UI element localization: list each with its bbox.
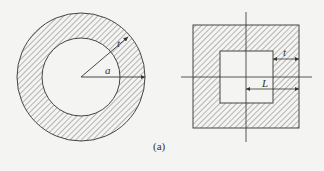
label-a: a (105, 64, 111, 76)
label-L: L (261, 77, 268, 89)
hollow-circle-cross-section: a t (17, 13, 145, 141)
figure-caption: (a) (153, 140, 165, 152)
hollow-square-cross-section: t L (181, 12, 312, 142)
